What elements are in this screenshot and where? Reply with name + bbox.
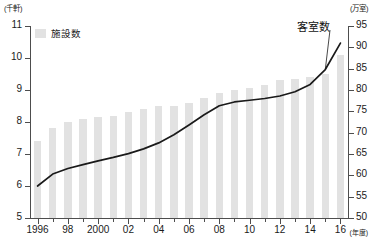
bar bbox=[94, 117, 102, 218]
right-axis-tick-label: 55 bbox=[356, 190, 367, 201]
legend-label-facilities: 施設数 bbox=[51, 26, 81, 40]
chart-container: (千軒) (万室) 567891011505560657075808590951… bbox=[0, 0, 384, 243]
bar bbox=[185, 103, 193, 218]
right-axis-tick-label: 70 bbox=[356, 126, 367, 137]
right-axis-tick-label: 95 bbox=[356, 19, 367, 30]
left-axis-tick bbox=[25, 122, 30, 123]
x-axis-tick bbox=[113, 219, 114, 222]
bar bbox=[110, 116, 118, 218]
bar bbox=[64, 122, 72, 218]
left-axis-tick bbox=[25, 58, 30, 59]
left-axis-tick-label: 5 bbox=[0, 211, 22, 222]
x-axis-tick-label: 04 bbox=[153, 224, 164, 235]
x-axis-tick bbox=[265, 219, 266, 222]
bar bbox=[306, 77, 314, 218]
left-axis-tick-label: 10 bbox=[0, 51, 22, 62]
right-axis-tick bbox=[349, 154, 354, 155]
x-axis-tick bbox=[325, 219, 326, 222]
series-annotation-guestrooms: 客室数 bbox=[297, 18, 330, 34]
left-axis-tick bbox=[25, 90, 30, 91]
right-axis-tick bbox=[349, 111, 354, 112]
bar bbox=[79, 119, 87, 218]
right-axis-tick-label: 90 bbox=[356, 40, 367, 51]
left-axis-tick-label: 11 bbox=[0, 19, 22, 30]
bar bbox=[216, 93, 224, 218]
right-axis-tick bbox=[349, 175, 354, 176]
left-axis-unit-label: (千軒) bbox=[4, 2, 22, 13]
x-axis-tick-label: 12 bbox=[274, 224, 285, 235]
bar bbox=[276, 80, 284, 218]
right-axis-tick-label: 80 bbox=[356, 83, 367, 94]
bar bbox=[246, 88, 254, 218]
x-axis-tick-label: 10 bbox=[244, 224, 255, 235]
x-axis-unit-label: (年度) bbox=[349, 227, 368, 237]
x-axis-tick-label: 02 bbox=[123, 224, 134, 235]
bar bbox=[140, 109, 148, 218]
x-axis-tick bbox=[234, 219, 235, 222]
bar-series-facilities bbox=[30, 26, 349, 218]
right-axis-tick-label: 60 bbox=[356, 168, 367, 179]
right-axis-tick bbox=[349, 133, 354, 134]
bar bbox=[231, 90, 239, 218]
bar bbox=[170, 106, 178, 218]
x-axis-tick bbox=[174, 219, 175, 222]
x-axis-tick bbox=[144, 219, 145, 222]
x-axis-tick-label: 98 bbox=[62, 224, 73, 235]
bar bbox=[49, 128, 57, 218]
left-axis-tick-label: 9 bbox=[0, 83, 22, 94]
bar bbox=[200, 98, 208, 218]
right-axis-tick-label: 65 bbox=[356, 147, 367, 158]
bar bbox=[261, 85, 269, 218]
bar bbox=[322, 74, 330, 218]
right-axis-tick-label: 85 bbox=[356, 62, 367, 73]
x-axis-tick bbox=[295, 219, 296, 222]
left-axis-tick bbox=[25, 26, 30, 27]
bar bbox=[125, 112, 133, 218]
right-axis-tick-label: 75 bbox=[356, 104, 367, 115]
bar bbox=[155, 106, 163, 218]
left-axis-tick-label: 7 bbox=[0, 147, 22, 158]
x-axis-tick bbox=[53, 219, 54, 222]
x-axis-tick-label: 06 bbox=[183, 224, 194, 235]
left-axis-tick-label: 6 bbox=[0, 179, 22, 190]
x-axis-tick bbox=[204, 219, 205, 222]
right-axis-tick bbox=[349, 90, 354, 91]
x-axis-tick-label: 14 bbox=[305, 224, 316, 235]
left-axis-tick bbox=[25, 154, 30, 155]
right-axis-tick bbox=[349, 47, 354, 48]
bar bbox=[34, 141, 42, 218]
right-axis-tick bbox=[349, 26, 354, 27]
right-axis-unit-label: (万室) bbox=[350, 2, 368, 13]
left-axis-tick bbox=[25, 218, 30, 219]
legend: 施設数 bbox=[35, 26, 81, 40]
right-axis-tick bbox=[349, 218, 354, 219]
x-axis-tick-label: 08 bbox=[214, 224, 225, 235]
x-axis-tick-label: 1996 bbox=[26, 224, 48, 235]
x-axis-tick-label: 2000 bbox=[87, 224, 109, 235]
legend-swatch-facilities bbox=[35, 29, 46, 38]
bar bbox=[337, 55, 345, 218]
right-axis-tick bbox=[349, 69, 354, 70]
left-axis-tick-label: 8 bbox=[0, 115, 22, 126]
x-axis-tick-label: 16 bbox=[335, 224, 346, 235]
right-axis-tick bbox=[349, 197, 354, 198]
x-axis-tick bbox=[83, 219, 84, 222]
left-axis-tick bbox=[25, 186, 30, 187]
bar bbox=[291, 79, 299, 218]
right-axis-tick-label: 50 bbox=[356, 211, 367, 222]
